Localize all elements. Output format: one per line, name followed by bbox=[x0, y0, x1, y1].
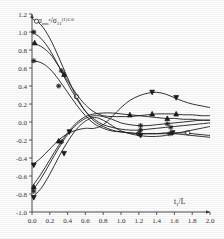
x-tick-label: 1.4 bbox=[152, 217, 161, 225]
x-tick-label: 1.8 bbox=[188, 217, 197, 225]
x-tick-label: 0.8 bbox=[99, 217, 108, 225]
x-axis-label: t1/L bbox=[174, 197, 186, 207]
curve-7-star-low2 bbox=[32, 116, 210, 192]
y-tick-label: -0.6 bbox=[16, 173, 28, 181]
curve-2-star bbox=[32, 32, 210, 130]
figure-container: 0.00.20.40.60.81.01.21.41.61.82.01.21.00… bbox=[0, 0, 224, 239]
y-tick-label: 1.2 bbox=[18, 11, 27, 19]
x-tick-label: 0.0 bbox=[28, 217, 37, 225]
x-tick-label: 1.6 bbox=[170, 217, 179, 225]
x-tick-label: 0.4 bbox=[63, 217, 72, 225]
x-tick-label: 0.2 bbox=[45, 217, 54, 225]
curve-8-solid-down-marker bbox=[62, 151, 67, 156]
curve-6-solid-tri-low bbox=[32, 113, 210, 187]
curve-3-solid-tri-marker bbox=[32, 40, 37, 45]
x-axis-arrow bbox=[206, 210, 210, 214]
x-tick-label: 1.2 bbox=[134, 217, 143, 225]
y-tick-label: 1.0 bbox=[18, 29, 27, 37]
y-tick-label: -0.8 bbox=[16, 191, 28, 199]
x-tick-label: 2.0 bbox=[206, 217, 215, 225]
curve-1-open-circle-marker bbox=[34, 19, 38, 23]
y-tick-label: 0.8 bbox=[18, 47, 27, 55]
y-tick-label: 0.4 bbox=[18, 83, 27, 91]
y-tick-label: 0.2 bbox=[18, 101, 27, 109]
curve-5-down-tri bbox=[32, 92, 210, 165]
y-tick-label: -1.0 bbox=[16, 209, 28, 217]
y-axis-arrow bbox=[30, 14, 34, 18]
chart-svg: 0.00.20.40.60.81.01.21.41.61.82.01.21.00… bbox=[0, 0, 224, 239]
y-tick-label: 0.0 bbox=[18, 119, 27, 127]
y-tick-label: 0.6 bbox=[18, 65, 27, 73]
y-tick-label: -0.2 bbox=[16, 137, 28, 145]
curve-1-open-circle bbox=[32, 19, 210, 136]
y-tick-label: -0.4 bbox=[16, 155, 28, 163]
x-tick-label: 1.0 bbox=[117, 217, 126, 225]
curve-4-star-low-marker bbox=[56, 83, 61, 88]
x-tick-label: 0.6 bbox=[81, 217, 90, 225]
y-axis-label: σmnz/σ11(1)1.0 bbox=[38, 16, 74, 26]
